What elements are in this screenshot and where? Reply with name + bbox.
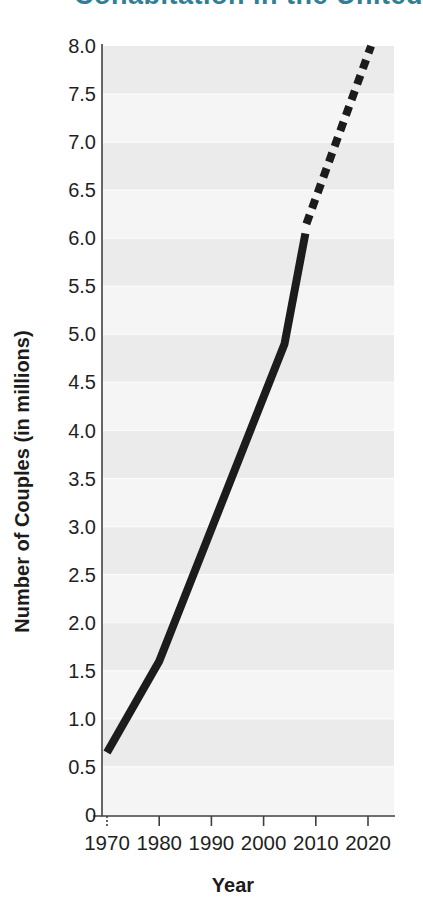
- background-band: [103, 479, 394, 527]
- y-tick-label: 7.5: [68, 83, 96, 105]
- background-band: [103, 46, 394, 94]
- background-band: [103, 767, 394, 815]
- y-tick-label: 8.0: [68, 35, 96, 57]
- x-axis-title: Year: [63, 874, 403, 897]
- y-tick-label: 0: [85, 804, 96, 826]
- x-tick-labels: 197019801990200020102020: [84, 831, 391, 854]
- y-tick-label: 5.5: [68, 275, 96, 297]
- y-tick-label: 4.0: [68, 420, 96, 442]
- y-tick-label: 7.0: [68, 131, 96, 153]
- y-axis-title: Number of Couples (in millions): [11, 282, 34, 682]
- background-band: [103, 575, 394, 623]
- background-band: [103, 190, 394, 238]
- background-band: [103, 94, 394, 142]
- x-tick-marks: [107, 816, 368, 826]
- background-band: [103, 527, 394, 575]
- y-tick-label: 3.5: [68, 468, 96, 490]
- x-tick-label: 2000: [241, 831, 287, 854]
- x-tick-label: 1980: [136, 831, 182, 854]
- y-tick-labels: 00.51.01.52.02.53.03.54.04.55.05.56.06.5…: [68, 35, 96, 826]
- y-tick-label: 2.0: [68, 612, 96, 634]
- x-tick-label: 2010: [293, 831, 339, 854]
- y-tick-label: 1.0: [68, 708, 96, 730]
- y-tick-label: 6.0: [68, 227, 96, 249]
- background-band: [103, 719, 394, 767]
- y-tick-label: 4.5: [68, 371, 96, 393]
- background-band: [103, 286, 394, 334]
- y-tick-label: 2.5: [68, 564, 96, 586]
- y-tick-label: 1.5: [68, 660, 96, 682]
- x-tick-label: 1990: [189, 831, 235, 854]
- y-tick-label: 3.0: [68, 516, 96, 538]
- background-band: [103, 142, 394, 190]
- background-band: [103, 238, 394, 286]
- background-band: [103, 382, 394, 430]
- x-tick-label: 1970: [84, 831, 130, 854]
- y-tick-label: 0.5: [68, 756, 96, 778]
- background-band: [103, 334, 394, 382]
- background-band: [103, 623, 394, 671]
- y-tick-label: 6.5: [68, 179, 96, 201]
- y-tick-label: 5.0: [68, 323, 96, 345]
- x-tick-label: 2020: [345, 831, 391, 854]
